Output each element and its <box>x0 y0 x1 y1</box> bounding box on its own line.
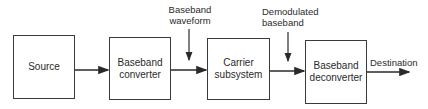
source-block: Source <box>13 35 75 99</box>
destination-label: Destination <box>370 57 418 68</box>
baseband-converter-block: Baseband converter <box>109 37 171 100</box>
baseband-converter-label-line2: converter <box>117 69 162 81</box>
carrier-subsystem-label-line2: subsystem <box>215 69 263 81</box>
baseband-waveform-line2: waveform <box>166 15 214 26</box>
source-label: Source <box>28 61 60 73</box>
demodulated-baseband-line2: baseband <box>262 17 322 28</box>
carrier-subsystem-label-line1: Carrier <box>215 57 263 69</box>
demodulated-baseband-annotation: Demodulated baseband <box>262 6 322 28</box>
demodulated-baseband-line1: Demodulated <box>262 6 322 17</box>
baseband-converter-label-line1: Baseband <box>117 57 162 69</box>
baseband-deconverter-label-line2: deconverter <box>310 72 363 84</box>
baseband-deconverter-label-line1: Baseband <box>310 60 363 72</box>
baseband-waveform-annotation: Baseband waveform <box>166 4 214 26</box>
baseband-waveform-line1: Baseband <box>166 4 214 15</box>
baseband-deconverter-block: Baseband deconverter <box>305 40 367 104</box>
carrier-subsystem-block: Carrier subsystem <box>207 38 270 100</box>
